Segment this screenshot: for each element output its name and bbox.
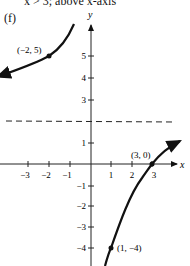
point-neg2-5 bbox=[47, 54, 52, 59]
svg-text:−2: −2 bbox=[76, 201, 86, 211]
x-axis-label: x bbox=[179, 159, 185, 170]
svg-text:3: 3 bbox=[82, 95, 87, 105]
svg-text:−3: −3 bbox=[76, 222, 86, 232]
svg-text:−2: −2 bbox=[41, 170, 51, 180]
svg-text:4: 4 bbox=[82, 73, 87, 83]
y-axis-label: y bbox=[87, 9, 93, 20]
svg-text:−1: −1 bbox=[76, 181, 86, 191]
point-1-neg4 bbox=[109, 246, 114, 251]
graph: x y −3 −2 −1 1 2 3 5 4 3 1 −1 −2 −3 bbox=[0, 0, 190, 266]
svg-text:2: 2 bbox=[130, 170, 135, 180]
point-label-neg2-5: (−2, 5) bbox=[17, 45, 42, 55]
svg-text:−3: −3 bbox=[20, 170, 30, 180]
svg-text:3: 3 bbox=[152, 170, 157, 180]
svg-text:−1: −1 bbox=[62, 170, 72, 180]
point-label-3-0: (3, 0) bbox=[131, 150, 151, 160]
x-tick-labels: −3 −2 −1 1 2 3 bbox=[20, 170, 157, 180]
point-3-0 bbox=[150, 162, 155, 167]
svg-text:5: 5 bbox=[82, 51, 87, 61]
horizontal-asymptote bbox=[6, 121, 176, 122]
y-tick-labels: 5 4 3 1 −1 −2 −3 −4 bbox=[76, 51, 86, 253]
point-label-1-neg4: (1, −4) bbox=[117, 243, 142, 253]
svg-text:1: 1 bbox=[109, 170, 114, 180]
svg-text:1: 1 bbox=[82, 138, 87, 148]
svg-text:−4: −4 bbox=[76, 243, 86, 253]
